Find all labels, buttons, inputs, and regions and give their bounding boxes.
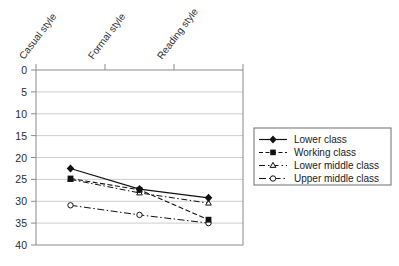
legend-label-lower-class: Lower class [294, 134, 347, 145]
legend-label-lower-middle-class: Lower middle class [294, 160, 379, 171]
data-point-upper-middle-class-1 [137, 212, 142, 217]
data-point-working-class-0 [68, 176, 74, 182]
y-tick-label-10: 10 [15, 108, 27, 120]
data-point-working-class-2 [206, 217, 212, 223]
y-tick-label-15: 15 [15, 130, 27, 142]
legend-marker-filled-square-icon [270, 150, 276, 156]
y-tick-label-5: 5 [21, 86, 27, 98]
y-tick-label-0: 0 [21, 64, 27, 76]
line-chart: 0 5 10 15 20 25 30 35 40 Casual style Fo… [0, 0, 399, 266]
y-axis-ticks [31, 70, 36, 245]
category-labels: Casual style Formal style Reading style [17, 6, 201, 61]
data-point-upper-middle-class-0 [68, 203, 73, 208]
category-label-casual: Casual style [17, 11, 59, 61]
y-axis-labels: 0 5 10 15 20 25 30 35 40 [15, 64, 27, 251]
category-ticks [36, 64, 243, 70]
category-label-formal: Formal style [86, 11, 128, 61]
legend-label-upper-middle-class: Upper middle class [294, 173, 379, 184]
y-tick-label-20: 20 [15, 152, 27, 164]
legend: Lower class Working class Lower middle c… [254, 128, 391, 185]
legend-label-working-class: Working class [294, 147, 356, 158]
y-tick-label-40: 40 [15, 239, 27, 251]
y-tick-label-30: 30 [15, 195, 27, 207]
legend-marker-open-circle-icon [270, 176, 275, 181]
y-tick-label-35: 35 [15, 217, 27, 229]
y-tick-label-25: 25 [15, 173, 27, 185]
category-label-reading: Reading style [155, 6, 201, 61]
